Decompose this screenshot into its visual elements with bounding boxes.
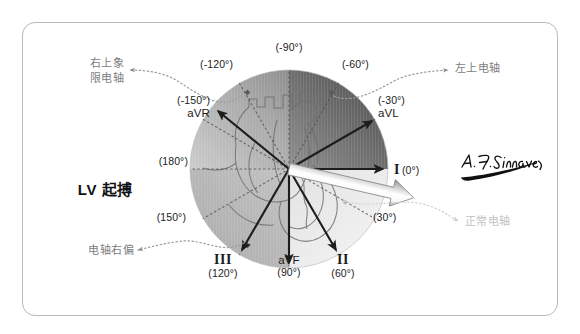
label-degree-30: (30°) [373, 212, 396, 224]
annotation-line-2: 限电轴 [48, 71, 124, 86]
label-degree-0: (0°) [402, 164, 419, 176]
annotation-normal-axis: 正常电轴 [465, 215, 511, 227]
label-degree-150: (150°) [108, 212, 186, 224]
annotation-right-superior-quadrant-axis: 右上象 限电轴 [48, 56, 124, 86]
label-degree-60: (60°) [310, 268, 376, 280]
label-lead-aVR-group: (-150°) aVR [126, 95, 210, 120]
label-degree-minus-150: (-150°) [126, 95, 210, 107]
signature-swoosh [461, 162, 538, 181]
label-degree-120: (120°) [190, 268, 256, 280]
label-lead-aVL-group: (-30°) aVL [378, 95, 405, 120]
author-signature [461, 155, 541, 181]
label-lead-I: I [394, 162, 400, 177]
annotation-right-axis-deviation: 电轴右偏 [56, 244, 134, 256]
label-lead-aVL: aVL [378, 107, 405, 120]
label-lead-aVR: aVR [126, 107, 210, 120]
annotation-left-superior-axis: 左上电轴 [455, 62, 501, 74]
callout-lv-pacing: LV 起搏 [28, 182, 133, 199]
label-lead-III: III [190, 252, 256, 268]
label-lead-III-group: III (120°) [190, 252, 256, 279]
label-degree-minus-60: (-60°) [342, 59, 369, 71]
label-lead-I-group: I(0°) [394, 160, 419, 178]
label-lead-II: II [310, 252, 376, 268]
label-degree-minus-90: (-90°) [252, 42, 326, 54]
label-degree-180: (180°) [120, 156, 188, 168]
annotation-line-1: 右上象 [48, 56, 124, 71]
label-degree-minus-120: (-120°) [155, 59, 233, 71]
label-lead-II-group: II (60°) [310, 252, 376, 279]
ecg-axis-figure: (-90°) (-120°) (-60°) (-150°) aVR (-30°)… [0, 0, 580, 334]
label-degree-minus-30: (-30°) [378, 95, 405, 107]
